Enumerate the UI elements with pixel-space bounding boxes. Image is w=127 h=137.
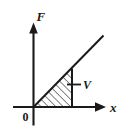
- arrow-up-icon: [29, 23, 38, 34]
- arrow-right-icon: [95, 102, 106, 111]
- origin-label: 0: [23, 110, 29, 124]
- graph-canvas: F x 0 V: [0, 0, 127, 137]
- figure-container: F x 0 V: [0, 0, 127, 137]
- shaded-region-label: V: [83, 78, 92, 92]
- x-axis-label: x: [109, 100, 117, 115]
- y-axis-label: F: [36, 9, 46, 24]
- y-axis: [29, 23, 38, 126]
